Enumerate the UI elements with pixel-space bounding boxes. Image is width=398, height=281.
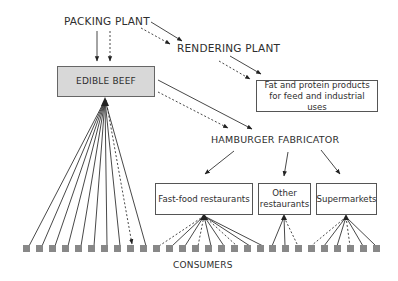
- arrow-beef-to-fabricator-solid: [158, 80, 252, 129]
- consumer-square: [166, 245, 173, 252]
- other-to-consumers-fan: [272, 217, 298, 246]
- beef-fan-arrowhead: [101, 97, 109, 106]
- consumer-square: [347, 245, 354, 252]
- node-consumers: CONSUMERS: [173, 260, 233, 270]
- consumer-square: [218, 245, 225, 252]
- consumer-square: [282, 245, 289, 252]
- beef-to-consumers-fan: [29, 100, 146, 246]
- consumer-square: [127, 245, 134, 252]
- consumer-square: [153, 245, 160, 252]
- consumer-square: [88, 245, 95, 252]
- consumer-square: [373, 245, 380, 252]
- arrow-fabricator-to-other: [284, 152, 288, 176]
- consumer-square: [140, 245, 147, 252]
- arrow-packing-to-rendering-dashed: [141, 28, 170, 44]
- consumer-square: [295, 245, 302, 252]
- arrow-fabricator-to-fastfood: [205, 151, 234, 174]
- consumer-square: [179, 245, 186, 252]
- consumer-square: [321, 245, 328, 252]
- arrow-beef-to-fabricator-dashed: [158, 92, 228, 128]
- consumer-square: [49, 245, 56, 252]
- consumer-square: [269, 245, 276, 252]
- consumer-square: [114, 245, 121, 252]
- supermarkets-to-consumers-fan: [311, 217, 376, 246]
- consumer-square: [62, 245, 69, 252]
- node-fat-protein-products: Fat and protein products for feed and in…: [256, 80, 378, 112]
- fastfood-to-consumers-fan: [159, 216, 263, 246]
- consumer-square: [36, 245, 43, 252]
- consumer-square: [23, 245, 30, 252]
- node-supermarkets: Supermarkets: [316, 183, 377, 215]
- node-fast-food-restaurants: Fast-food restaurants: [155, 183, 253, 215]
- consumer-square: [308, 245, 315, 252]
- consumer-square: [244, 245, 251, 252]
- node-packing-plant: PACKING PLANT: [64, 15, 150, 27]
- arrow-rendering-to-fat-solid: [230, 56, 261, 74]
- node-rendering-plant: RENDERING PLANT: [177, 42, 280, 54]
- consumer-square: [360, 245, 367, 252]
- node-edible-beef: EDIBLE BEEF: [57, 66, 155, 97]
- arrow-rendering-to-fat-dashed: [219, 61, 250, 79]
- consumer-square: [257, 245, 264, 252]
- arrow-fabricator-to-supermarkets: [321, 150, 340, 174]
- consumer-square: [334, 245, 341, 252]
- consumer-square: [75, 245, 82, 252]
- consumer-square: [192, 245, 199, 252]
- arrow-packing-to-rendering-solid: [151, 22, 182, 41]
- consumer-square: [205, 245, 212, 252]
- consumer-square: [101, 245, 108, 252]
- node-hamburger-fabricator: HAMBURGER FABRICATOR: [211, 134, 339, 145]
- node-other-restaurants: Other restaurants: [258, 183, 311, 215]
- consumer-square: [231, 245, 238, 252]
